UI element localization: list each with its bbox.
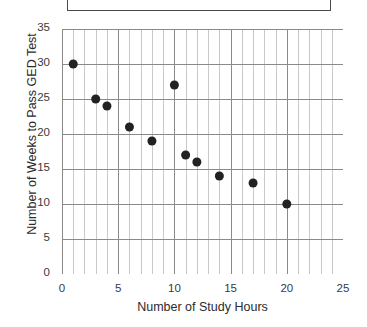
y-axis-tick-label: 10 bbox=[24, 196, 50, 208]
data-point bbox=[192, 158, 201, 167]
plot-canvas bbox=[62, 29, 343, 274]
y-axis-tick-label: 25 bbox=[24, 91, 50, 103]
x-axis-tick-label: 20 bbox=[272, 282, 302, 294]
data-point bbox=[125, 123, 134, 132]
plot-area bbox=[62, 29, 343, 274]
data-point bbox=[282, 200, 291, 209]
data-point bbox=[91, 95, 100, 104]
scatter-plot-figure: Number of Weeks to Pass GED Test Number … bbox=[0, 0, 367, 327]
x-axis-tick-label: 10 bbox=[159, 282, 189, 294]
data-point bbox=[147, 137, 156, 146]
data-point bbox=[215, 172, 224, 181]
y-axis-tick-label: 5 bbox=[24, 231, 50, 243]
data-point bbox=[249, 179, 258, 188]
x-axis-tick-label: 25 bbox=[328, 282, 358, 294]
chart-title-box bbox=[67, 0, 331, 11]
y-axis-tick-label: 35 bbox=[24, 21, 50, 33]
data-point bbox=[181, 151, 190, 160]
x-axis-tick-label: 0 bbox=[47, 282, 77, 294]
y-axis-tick-label: 20 bbox=[24, 126, 50, 138]
x-axis-tick-label: 15 bbox=[216, 282, 246, 294]
x-axis-title: Number of Study Hours bbox=[62, 300, 343, 314]
x-axis-tick-label: 5 bbox=[103, 282, 133, 294]
y-axis-tick-label: 15 bbox=[24, 161, 50, 173]
data-point bbox=[170, 81, 179, 90]
data-point bbox=[69, 60, 78, 69]
y-axis-tick-label: 30 bbox=[24, 56, 50, 68]
data-point bbox=[102, 102, 111, 111]
y-axis-tick-label: 0 bbox=[24, 266, 50, 278]
